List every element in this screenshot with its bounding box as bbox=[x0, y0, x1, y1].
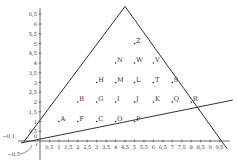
point-V: V bbox=[153, 56, 160, 64]
axes: 0,511,522,533,544,555,566,577,588,599,50… bbox=[2, 8, 230, 160]
y-tick-label: 1,5 bbox=[29, 109, 37, 115]
x-tick-label: 6,5 bbox=[159, 144, 167, 150]
point-K: K bbox=[153, 95, 160, 103]
point-A: A bbox=[58, 115, 65, 123]
point-label: J bbox=[135, 95, 139, 103]
point-label: C bbox=[98, 115, 103, 123]
point-B: B bbox=[77, 95, 84, 103]
point-W: W bbox=[134, 56, 143, 64]
y-tick-label: 2,5 bbox=[29, 89, 37, 95]
neg-x-label: −0,1 bbox=[2, 133, 15, 139]
point-H: H bbox=[96, 76, 104, 84]
point-J: J bbox=[134, 95, 139, 103]
x-tick-label: 2 bbox=[76, 144, 79, 150]
point-Z: Z bbox=[134, 37, 141, 45]
point-label: R bbox=[193, 95, 199, 103]
point-label: L bbox=[136, 76, 141, 84]
y-tick-label: 2 bbox=[34, 99, 37, 105]
bottom-line bbox=[21, 100, 233, 143]
point-I: I bbox=[115, 95, 120, 103]
y-tick-label: 1 bbox=[34, 119, 37, 125]
lines bbox=[21, 6, 233, 148]
y-tick-label: 3 bbox=[34, 80, 37, 86]
origin-label: 0 bbox=[34, 133, 37, 139]
y-tick-label: 4 bbox=[34, 60, 38, 66]
point-label: A bbox=[59, 115, 65, 123]
point-label: T bbox=[155, 76, 160, 84]
point-M: M bbox=[115, 76, 124, 84]
point-label: W bbox=[136, 56, 143, 64]
x-tick-label: 8,5 bbox=[197, 144, 205, 150]
coordinate-diagram: 0,511,522,533,544,555,566,577,588,599,50… bbox=[0, 0, 237, 163]
x-tick-label: 9 bbox=[208, 144, 211, 150]
x-tick-label: 0,5 bbox=[45, 144, 53, 150]
y-tick-label: 6,5 bbox=[29, 11, 37, 17]
point-L: L bbox=[134, 76, 141, 84]
x-tick-label: 3,5 bbox=[102, 144, 110, 150]
x-tick-label: 4,5 bbox=[121, 144, 129, 150]
x-tick-label: 1,5 bbox=[64, 144, 72, 150]
point-T: T bbox=[153, 76, 160, 84]
point-N: N bbox=[115, 56, 123, 64]
point-label: B bbox=[79, 95, 84, 103]
point-label: K bbox=[155, 95, 160, 103]
x-tick-label: 4 bbox=[114, 144, 118, 150]
points: AFCOPBGIJKQRHMLTSNWVZ bbox=[58, 37, 199, 123]
point-G: G bbox=[96, 95, 104, 103]
x-tick-label: 9,5 bbox=[215, 144, 223, 150]
point-label: N bbox=[117, 56, 123, 64]
y-tick-label: 6 bbox=[34, 21, 37, 27]
point-label: H bbox=[98, 76, 104, 84]
point-label: F bbox=[79, 115, 84, 123]
x-tick-label: 5,5 bbox=[140, 144, 148, 150]
point-label: I bbox=[117, 95, 120, 103]
x-tick-label: 1 bbox=[57, 144, 60, 150]
y-tick-label: 3,5 bbox=[29, 70, 37, 76]
point-label: G bbox=[98, 95, 103, 103]
point-label: P bbox=[136, 115, 141, 123]
x-tick-label: 7 bbox=[171, 144, 174, 150]
y-tick-label: 4,5 bbox=[29, 50, 37, 56]
point-S: S bbox=[172, 76, 179, 84]
left-line bbox=[23, 6, 125, 143]
point-C: C bbox=[96, 115, 103, 123]
point-label: Q bbox=[174, 95, 179, 103]
x-tick-label: 6 bbox=[152, 144, 155, 150]
y-tick-label: 5,5 bbox=[29, 31, 37, 37]
point-label: V bbox=[154, 56, 160, 64]
point-label: M bbox=[117, 76, 124, 84]
x-tick-label: 8 bbox=[190, 144, 193, 150]
arrow-icon bbox=[20, 145, 32, 154]
point-F: F bbox=[77, 115, 84, 123]
point-label: Z bbox=[136, 37, 141, 45]
point-Q: Q bbox=[172, 95, 180, 103]
x-tick-label: 2,5 bbox=[83, 144, 91, 150]
x-tick-label: 3 bbox=[95, 144, 98, 150]
point-label: S bbox=[174, 76, 178, 84]
x-tick-label: 5 bbox=[133, 144, 136, 150]
point-label: O bbox=[117, 115, 122, 123]
x-tick-label: 7,5 bbox=[178, 144, 186, 150]
y-tick-label: 5 bbox=[34, 41, 37, 47]
point-P: P bbox=[134, 115, 141, 123]
point-O: O bbox=[115, 115, 123, 123]
neg-y-label: −0,5 bbox=[7, 151, 20, 157]
